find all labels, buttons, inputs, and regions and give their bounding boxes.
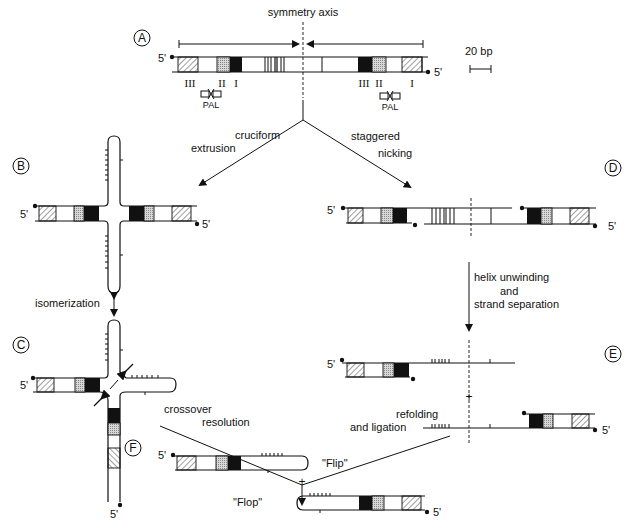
region-label-iii-right: III (359, 77, 370, 89)
svg-text:PAL: PAL (203, 100, 219, 110)
svg-text:PAL: PAL (382, 102, 398, 112)
panel-label-e: E (609, 347, 617, 361)
panel-d: D 5' 5' (327, 160, 621, 236)
region-label-i-left: I (234, 77, 238, 89)
svg-text:5': 5' (327, 204, 335, 216)
svg-text:strand separation: strand separation (474, 298, 559, 310)
svg-text:5': 5' (327, 358, 335, 370)
panel-label-c: C (17, 338, 26, 352)
symmetry-axis-label: symmetry axis (268, 6, 339, 18)
pal-symbol-left: PAL (201, 89, 221, 110)
panel-label-a: A (138, 31, 146, 45)
svg-text:5': 5' (20, 208, 28, 220)
pal-symbol-right: PAL (380, 91, 400, 112)
scale-bar-label: 20 bp (465, 45, 493, 57)
svg-text:helix unwinding: helix unwinding (474, 271, 549, 283)
panel-c: C 5' 5' (13, 320, 176, 520)
svg-text:5': 5' (158, 449, 166, 461)
panel-label-f: F (129, 441, 136, 455)
svg-text:extrusion: extrusion (191, 142, 236, 154)
step-staggered: staggered (351, 130, 400, 142)
svg-text:5': 5' (608, 220, 616, 232)
panel-label-b: B (17, 159, 25, 173)
five-prime-label: 5' (434, 66, 442, 78)
panel-f: F 5' "Flip" + "Flop" 5' (125, 440, 441, 518)
flop-label: "Flop" (233, 496, 262, 508)
svg-text:5': 5' (433, 506, 441, 518)
region-label-i-right: I (410, 77, 414, 89)
svg-text:5': 5' (20, 379, 28, 391)
svg-text:5': 5' (202, 218, 210, 230)
panel-b: B 5' 5' (13, 136, 210, 293)
svg-text:refolding: refolding (396, 408, 438, 420)
region-label-ii-left: II (218, 77, 226, 89)
region-label-iii-left: III (185, 77, 196, 89)
svg-text:nicking: nicking (378, 147, 412, 159)
panel-a: A symmetry axis 5' 5' III II I III (134, 6, 493, 112)
svg-text:resolution: resolution (202, 416, 250, 428)
flip-label: "Flip" (322, 457, 348, 469)
isomerization-step: isomerization (35, 297, 114, 315)
svg-text:+: + (298, 475, 305, 489)
diagram-canvas: A symmetry axis 5' 5' III II I III (0, 0, 634, 524)
svg-text:and: and (500, 285, 518, 297)
svg-text:5': 5' (110, 508, 118, 520)
svg-text:crossover: crossover (164, 403, 212, 415)
step-cruciform: cruciform (235, 129, 280, 141)
five-prime-dot (170, 55, 174, 59)
scale-bar (470, 65, 491, 73)
svg-text:isomerization: isomerization (35, 297, 100, 309)
branch-arrows-top: cruciform extrusion staggered nicking (191, 100, 412, 187)
svg-text:5': 5' (602, 424, 610, 436)
svg-text:and ligation: and ligation (350, 421, 406, 433)
five-prime-dot (426, 70, 430, 74)
region-label-ii-right: II (375, 77, 383, 89)
helix-unwinding-step: helix unwinding and strand separation (469, 262, 559, 330)
panel-label-d: D (609, 161, 618, 175)
five-prime-label: 5' (158, 52, 166, 64)
